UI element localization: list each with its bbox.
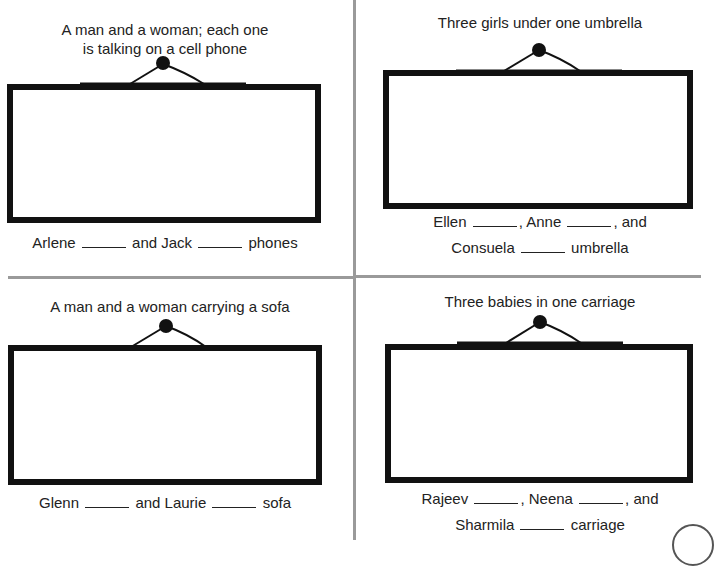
panel-caption: Three girls under one umbrella (390, 13, 690, 32)
fill-in-sentence: Arlene and Jack phones (0, 234, 330, 251)
name-label: Consuela (451, 239, 514, 256)
sentence-text: , and (625, 490, 658, 507)
vertical-divider (353, 0, 356, 540)
answer-blank[interactable] (82, 246, 126, 248)
picture-hanger-icon (80, 54, 250, 88)
drawing-frame[interactable] (385, 344, 693, 483)
answer-blank[interactable] (520, 528, 564, 530)
sentence-text: carriage (571, 516, 625, 533)
answer-blank[interactable] (474, 502, 518, 504)
answer-blank[interactable] (473, 225, 517, 227)
name-label: , Neena (520, 490, 573, 507)
picture-hanger-icon (456, 40, 626, 74)
name-label: Ellen (433, 213, 466, 230)
sentence-text: phones (248, 234, 297, 251)
sentence-text: umbrella (571, 239, 629, 256)
answer-blank[interactable] (567, 225, 611, 227)
page-number-circle-icon (672, 524, 714, 566)
sentence-text: sofa (263, 494, 291, 511)
answer-blank[interactable] (579, 502, 623, 504)
drawing-frame[interactable] (383, 70, 693, 209)
drawing-frame[interactable] (7, 84, 321, 223)
caption-line: A man and a woman carrying a sofa (20, 297, 320, 316)
panel-caption: A man and a woman carrying a sofa (20, 297, 320, 316)
panel-caption: A man and a woman; each one is talking o… (20, 20, 310, 58)
panel-caption: Three babies in one carriage (390, 292, 690, 311)
answer-blank[interactable] (85, 506, 129, 508)
fill-in-sentence-line2: Consuela umbrella (380, 239, 700, 256)
picture-hanger-icon (457, 312, 627, 346)
name-label: Glenn (39, 494, 79, 511)
answer-blank[interactable] (521, 251, 565, 253)
answer-blank[interactable] (198, 246, 242, 248)
drawing-frame[interactable] (8, 345, 322, 485)
fill-in-sentence-line1: Ellen , Anne , and (380, 213, 700, 230)
name-label: , Anne (519, 213, 562, 230)
sentence-text: and Laurie (135, 494, 206, 511)
answer-blank[interactable] (212, 506, 256, 508)
name-label: Rajeev (422, 490, 469, 507)
caption-line: Three girls under one umbrella (390, 13, 690, 32)
horizontal-divider-left (8, 276, 353, 279)
sentence-text: , and (613, 213, 646, 230)
fill-in-sentence-line2: Sharmila carriage (380, 516, 700, 533)
name-label: Sharmila (455, 516, 514, 533)
caption-line: Three babies in one carriage (390, 292, 690, 311)
fill-in-sentence-line1: Rajeev , Neena , and (380, 490, 700, 507)
horizontal-divider-right (356, 275, 701, 278)
sentence-text: and Jack (132, 234, 192, 251)
fill-in-sentence: Glenn and Laurie sofa (0, 494, 330, 511)
caption-line: A man and a woman; each one (20, 20, 310, 39)
name-label: Arlene (32, 234, 75, 251)
